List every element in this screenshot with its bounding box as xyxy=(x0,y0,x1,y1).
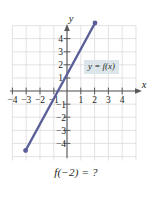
y-tick-label: 4 xyxy=(58,34,63,44)
function-label: y = f(x) xyxy=(84,60,119,74)
y-tick-label: −2 xyxy=(56,113,66,123)
graph-figure: −4 −3 −2 −1 1 2 3 4 4 3 2 1 −1 −2 −3 −4 … xyxy=(0,0,152,200)
y-tick-label: −4 xyxy=(56,139,66,149)
axes xyxy=(10,28,137,158)
y-tick-label: 3 xyxy=(58,47,63,57)
coordinate-plane-svg: −4 −3 −2 −1 1 2 3 4 4 3 2 1 −1 −2 −3 −4 … xyxy=(0,0,152,165)
x-axis-label: x xyxy=(141,79,147,90)
line-endpoint-lower xyxy=(23,148,28,153)
figure-caption: f(−2) = ? xyxy=(0,166,152,178)
y-tick-label: −3 xyxy=(56,126,66,136)
y-tick-label: −1 xyxy=(56,100,66,110)
x-tick-label: −4 xyxy=(7,95,17,105)
y-axis-label: y xyxy=(68,13,74,24)
x-tick-label: 3 xyxy=(106,95,111,105)
coordinate-plane: −4 −3 −2 −1 1 2 3 4 4 3 2 1 −1 −2 −3 −4 … xyxy=(0,0,152,165)
y-axis-arrow xyxy=(64,24,70,31)
x-tick-labels: −4 −3 −2 −1 1 2 3 4 xyxy=(7,95,124,105)
x-tick-label: 2 xyxy=(92,95,97,105)
line-endpoint-upper xyxy=(93,21,98,26)
x-tick-label: −2 xyxy=(35,95,45,105)
y-tick-label: 2 xyxy=(58,60,63,70)
x-tick-label: 1 xyxy=(78,95,83,105)
x-tick-label: −3 xyxy=(21,95,31,105)
x-tick-label: 4 xyxy=(120,95,125,105)
